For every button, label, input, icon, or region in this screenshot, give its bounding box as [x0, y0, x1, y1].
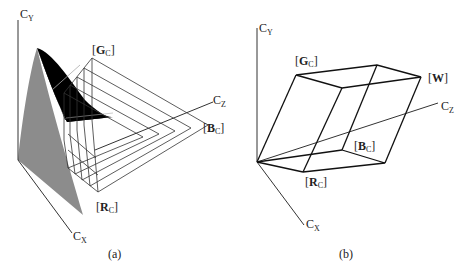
label-cx-a: CX	[73, 229, 87, 245]
label-cz-a: CZ	[213, 93, 226, 109]
gamut-box-b	[257, 65, 421, 172]
label-cy-b: CY	[259, 21, 273, 37]
caption-b: (b)	[339, 247, 353, 261]
axis-cx-b	[257, 162, 304, 225]
label-w-b: [W]	[428, 71, 448, 85]
label-bc-a: [BC]	[203, 121, 224, 136]
label-rc-a: [RC]	[96, 200, 118, 215]
label-rc-b: [RC]	[305, 175, 327, 190]
label-gc-b: [GC]	[295, 54, 318, 69]
label-bc-b: [BC]	[354, 139, 375, 154]
caption-a: (a)	[108, 247, 121, 261]
panel-a: CY CX CZ [GC] [BC] [RC] (a)	[18, 7, 226, 261]
label-gc-a: [GC]	[92, 43, 115, 58]
panel-b: CY CX CZ [GC] [W] [BC] [RC] (b)	[257, 21, 454, 261]
axis-cz-b	[257, 103, 438, 162]
label-cy-a: CY	[20, 7, 34, 23]
color-space-figure: CY CX CZ [GC] [BC] [RC] (a)	[0, 0, 471, 270]
label-cz-b: CZ	[441, 99, 454, 115]
gamut-wireframe-a	[64, 58, 208, 192]
label-cx-b: CX	[306, 217, 320, 233]
axis-cz-a	[95, 102, 213, 150]
